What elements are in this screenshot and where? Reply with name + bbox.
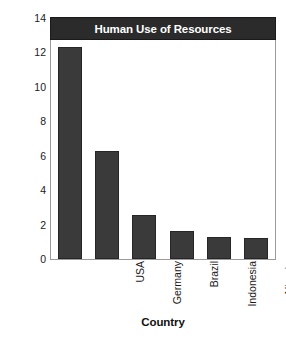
y-tick-label: 12 (28, 46, 46, 58)
y-tick-label: 8 (28, 115, 46, 127)
x-axis-title: Country (50, 316, 276, 328)
y-axis-tick-labels: 02468101214 (24, 0, 46, 339)
bar-series (51, 18, 275, 259)
bar (95, 151, 119, 259)
y-tick-label: 4 (28, 184, 46, 196)
y-tick-label: 2 (28, 219, 46, 231)
bar-chart-figure: Estimated hectares of land used 02468101… (0, 0, 286, 339)
bar (244, 238, 268, 259)
bar (132, 215, 156, 259)
y-tick-label: 6 (28, 150, 46, 162)
bar (58, 47, 82, 259)
y-tick-label: 10 (28, 81, 46, 93)
y-tick-label: 0 (28, 253, 46, 265)
bar (170, 231, 194, 259)
x-axis-tick-labels: USAGermanyBrazilIndonesiaNigeriaIndia (51, 261, 275, 313)
bar (207, 237, 231, 259)
x-tick-label: Nigeria (283, 261, 286, 331)
y-tick-label: 14 (28, 12, 46, 24)
